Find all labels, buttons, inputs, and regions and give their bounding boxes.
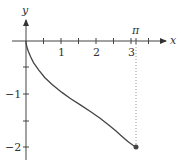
cycloid-chart: y x π 1 2 3 −1 −2 (0, 0, 182, 164)
x-axis-label: x (170, 34, 177, 47)
y-tick-label-minus1: −1 (5, 88, 21, 101)
x-tick-label-3: 3 (128, 46, 135, 59)
y-tick-label-minus2: −2 (5, 141, 21, 154)
endpoint-dot (134, 145, 139, 150)
x-tick-label-2: 2 (93, 46, 100, 59)
x-tick-label-1: 1 (58, 46, 65, 59)
cycloid-curve (26, 41, 136, 147)
pi-label: π (131, 24, 140, 37)
y-axis-label: y (21, 4, 29, 17)
